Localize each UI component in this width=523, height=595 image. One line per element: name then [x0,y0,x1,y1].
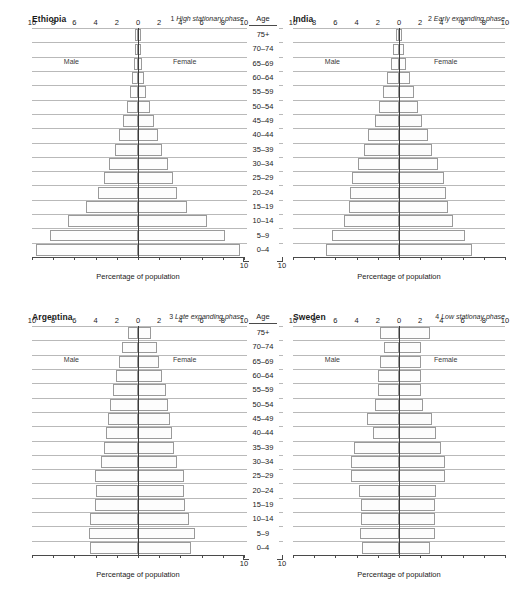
x-axis-tick-label: 6 [72,316,76,325]
plot-area: MaleFemale [32,326,244,555]
x-axis-tick [357,257,358,260]
bar-female [138,442,174,454]
x-axis-tick [138,555,139,558]
x-axis-tick [180,257,181,260]
age-tick-left [243,200,247,201]
age-tick-left [243,383,247,384]
x-axis-tick-label: 8 [51,18,55,27]
plot-area: MaleFemale [293,326,505,555]
x-axis-tick-label: 0 [397,18,401,27]
x-axis-tick [378,555,379,558]
x-axis-tick-label: 0 [136,18,140,27]
chart-title: Ethiopia [32,14,66,24]
bar-male [354,442,399,454]
bar-male [130,86,138,98]
chart-panel-argentina: Argentina3 Late expanding phaseMaleFemal… [14,312,244,587]
age-tick-left [243,398,247,399]
x-axis-tick-label: 4 [439,316,443,325]
bar-female [138,115,154,127]
bar-male [375,399,399,411]
bar-female [399,244,472,256]
bar-female [399,72,410,84]
bar-male [127,101,138,113]
bar-female [138,342,157,354]
age-tick-left [243,483,247,484]
age-tick-left [243,100,247,101]
male-label: Male [64,356,79,363]
x-axis-tick [74,257,75,260]
bar-female [138,187,177,199]
bar-male [116,370,138,382]
bar-female [138,384,166,396]
x-axis-tick [484,555,485,558]
bar-female [399,413,432,425]
x-axis-tick [74,555,75,558]
bar-female [138,215,207,227]
x-axis-tick-label: 8 [51,316,55,325]
x-axis-tick-label: 8 [221,18,225,27]
bar-female [138,86,146,98]
bar-male [378,370,399,382]
plot-area: MaleFemale [293,28,505,257]
x-axis-tick-label: 10 [289,18,297,27]
bar-female [399,485,436,497]
bar-male [361,513,399,525]
bar-male [373,427,400,439]
x-axis-title: Percentage of population [32,570,244,579]
x-axis-tick-label: 6 [461,18,465,27]
bar-male [123,115,138,127]
bar-male [98,187,138,199]
age-tick-left [243,340,247,341]
bar-male [113,384,138,396]
bar-male [119,356,138,368]
bar-female [399,327,430,339]
x-axis-tick-label: 2 [418,316,422,325]
center-axis [138,28,139,257]
x-axis-tick [335,257,336,260]
bar-male [351,470,399,482]
age-tick-left [243,455,247,456]
x-axis-tick-label: 4 [355,316,359,325]
x-axis-tick [159,555,160,558]
x-axis-tick-label: 2 [115,18,119,27]
x-axis-tick-label: 2 [115,316,119,325]
panel-row: Argentina3 Late expanding phaseMaleFemal… [0,298,523,595]
bar-female [399,456,445,468]
bar-female [399,370,421,382]
bar-female [399,215,453,227]
bar-male [36,244,138,256]
age-tick-left [243,369,247,370]
bar-female [138,542,191,554]
age-tick-left [243,412,247,413]
x-axis-tick [441,257,442,260]
x-axis-tick-label: 10 [240,261,248,270]
bar-male [326,244,399,256]
x-axis-title: Percentage of population [293,272,505,281]
bar-male [50,230,138,242]
x-axis-tick [117,555,118,558]
phase-text: High stationary phase [176,15,244,22]
bar-female [399,144,432,156]
phase-text: Low stationay phase [441,313,505,320]
bar-female [399,470,445,482]
chart-title: Sweden [293,312,326,322]
population-pyramids-figure: Ethiopia1 High stationary phaseMaleFemal… [0,0,523,595]
age-tick-left [243,355,247,356]
x-axis-tick-label: 6 [200,316,204,325]
bar-female [399,187,446,199]
bar-female [399,499,435,511]
age-tick-left [243,128,247,129]
panel-row: Ethiopia1 High stationary phaseMaleFemal… [0,0,523,297]
bar-male [96,485,138,497]
center-axis [138,326,139,555]
bar-female [138,456,177,468]
panel-header: India2 Early expanding phase [275,14,505,27]
bar-male [360,528,399,540]
bar-female [138,399,168,411]
x-axis-tick [32,555,33,558]
bar-male [110,399,138,411]
bar-male [351,456,399,468]
bar-female [399,201,448,213]
bar-male [362,542,399,554]
bar-male [352,172,399,184]
